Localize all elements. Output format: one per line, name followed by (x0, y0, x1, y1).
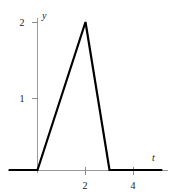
y-tick-label-1: 1 (20, 93, 25, 104)
pulse-curve (9, 22, 163, 170)
y-tick-label-2: 2 (20, 17, 25, 28)
x-tick-label-2: 2 (83, 180, 88, 191)
x-tick-label-4: 4 (131, 180, 136, 191)
y-axis-label: y (41, 10, 47, 21)
plot-figure: y t 2 1 2 4 (0, 0, 170, 195)
triangular-pulse-chart: y t 2 1 2 4 (0, 0, 170, 195)
x-axis-label: t (152, 152, 155, 163)
